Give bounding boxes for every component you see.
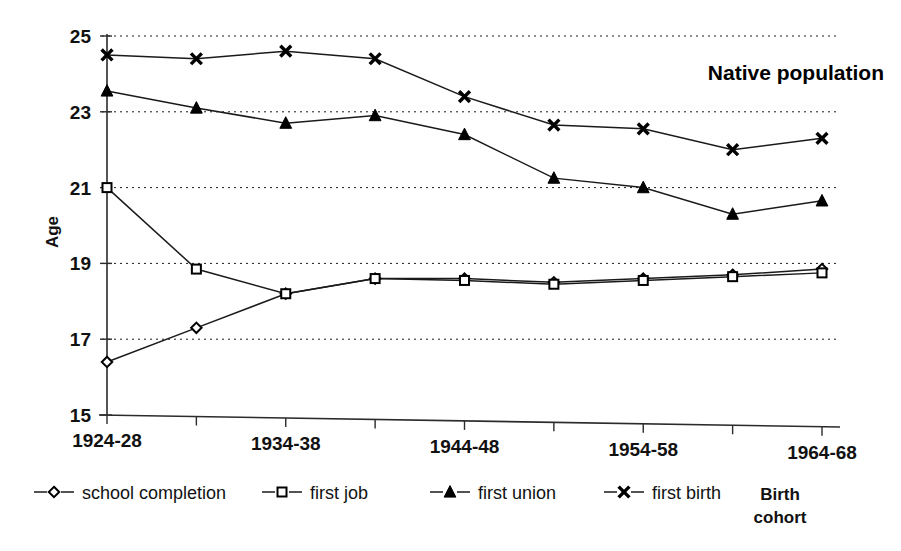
x-axis-title-line1: Birth bbox=[760, 485, 800, 504]
data-point-first-union-0 bbox=[101, 85, 113, 97]
data-point-first-job-3 bbox=[371, 274, 380, 283]
legend-item-first-job[interactable]: first job bbox=[262, 483, 368, 503]
data-point-first-job-7 bbox=[728, 272, 737, 281]
x-axis-tick-label: 1964-68 bbox=[787, 442, 857, 463]
data-point-school-completion-1 bbox=[191, 323, 201, 333]
x-axis-tick-label: 1954-58 bbox=[608, 439, 678, 460]
data-point-first-union-3 bbox=[369, 109, 381, 121]
y-axis-tick-label: 23 bbox=[70, 102, 91, 123]
data-point-first-birth-4 bbox=[459, 91, 470, 102]
legend-label: first job bbox=[310, 483, 368, 503]
chart-title: Native population bbox=[708, 61, 884, 84]
y-axis-tick-label: 19 bbox=[70, 253, 91, 274]
line-chart-figure: 151719212325 1924-281934-381944-481954-5… bbox=[0, 0, 901, 551]
legend-marker-diamond-open bbox=[49, 487, 59, 497]
axes-group bbox=[99, 34, 840, 436]
y-axis-tick-label: 21 bbox=[70, 178, 92, 199]
series-line-first-union bbox=[107, 91, 822, 214]
data-point-first-job-4 bbox=[460, 276, 469, 285]
y-axis-tick-labels: 151719212325 bbox=[70, 26, 92, 426]
x-axis-tick-labels: 1924-281934-381944-481954-581964-68 bbox=[72, 430, 857, 463]
legend-label: first union bbox=[478, 483, 556, 503]
data-point-school-completion-0 bbox=[102, 357, 112, 367]
data-point-first-job-5 bbox=[549, 280, 558, 289]
x-axis-tick-label: 1934-38 bbox=[251, 433, 321, 454]
legend-item-first-union[interactable]: first union bbox=[430, 483, 556, 503]
x-axis-title-line2: cohort bbox=[754, 508, 807, 527]
legend-marker-cross bbox=[619, 487, 630, 498]
data-point-first-job-2 bbox=[281, 289, 290, 298]
data-point-first-job-8 bbox=[818, 268, 827, 277]
y-axis-tick-label: 17 bbox=[70, 329, 91, 350]
x-axis-tick-label: 1924-28 bbox=[72, 430, 142, 451]
legend-marker-square-open bbox=[278, 488, 287, 497]
legend-marker-triangle-solid bbox=[444, 486, 456, 498]
data-point-first-job-1 bbox=[192, 265, 201, 274]
y-axis-tick-label: 15 bbox=[70, 405, 92, 426]
chart-container: 151719212325 1924-281934-381944-481954-5… bbox=[0, 0, 901, 551]
data-point-first-union-5 bbox=[548, 172, 560, 184]
legend-label: first birth bbox=[652, 483, 721, 503]
x-axis-tick-label: 1944-48 bbox=[430, 436, 500, 457]
data-point-first-job-6 bbox=[639, 276, 648, 285]
y-axis-title: Age bbox=[43, 216, 62, 248]
series-markers-group bbox=[101, 46, 828, 367]
legend-item-first-birth[interactable]: first birth bbox=[604, 483, 721, 503]
legend-label: school completion bbox=[82, 483, 226, 503]
data-point-first-union-8 bbox=[816, 194, 828, 206]
x-axis-line bbox=[99, 415, 840, 427]
data-point-first-job-0 bbox=[103, 183, 112, 192]
legend-item-school-completion[interactable]: school completion bbox=[34, 483, 226, 503]
chart-legend: school completionfirst jobfirst unionfir… bbox=[34, 483, 721, 503]
y-axis-tick-label: 25 bbox=[70, 26, 92, 47]
